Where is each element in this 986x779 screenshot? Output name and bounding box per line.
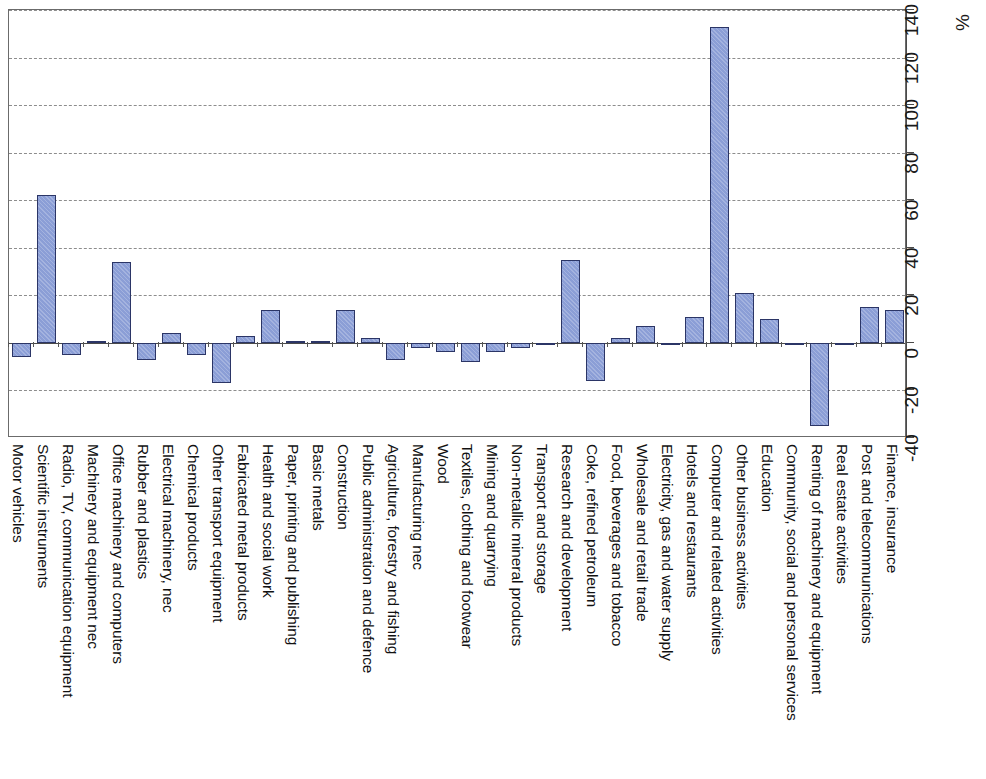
chart-figure: -40-20020406080100120140 % Motor vehicle… [0, 0, 986, 779]
bar [561, 260, 580, 343]
gridline [9, 153, 905, 154]
category-label: Chemical products [186, 444, 202, 571]
y-axis-tick [907, 342, 914, 343]
x-axis-tick [58, 342, 59, 347]
gridline [9, 105, 905, 106]
category-label: Transport and storage [535, 444, 551, 594]
bar [436, 343, 455, 353]
bar [636, 326, 655, 343]
x-axis-tick [133, 342, 134, 347]
bar [236, 336, 255, 343]
bar [735, 293, 754, 343]
bar [12, 343, 31, 357]
bar [361, 338, 380, 343]
x-axis-tick [532, 342, 533, 347]
category-label: Textiles, clothing and footwear [460, 444, 476, 649]
category-label: Health and social work [260, 444, 276, 598]
bar [386, 343, 405, 360]
bar [336, 310, 355, 343]
plot-area [9, 10, 905, 436]
x-axis-tick [432, 342, 433, 347]
category-label: Office machinery and computers [111, 444, 127, 664]
x-axis-tick [233, 342, 234, 347]
bar [461, 343, 480, 362]
x-axis-tick [407, 342, 408, 347]
bar [860, 307, 879, 343]
category-label: Public administration and defence [360, 444, 376, 673]
y-axis-tick-label: 40 [901, 247, 923, 269]
bar [685, 317, 704, 343]
bar [261, 310, 280, 343]
x-axis-tick [8, 342, 9, 347]
gridline [9, 10, 905, 11]
category-labels: Motor vehiclesScientific instrumentsRadi… [8, 444, 906, 774]
y-axis-tick-label: 60 [901, 199, 923, 221]
y-axis-tick-label: 100 [901, 99, 923, 131]
x-axis-tick [706, 342, 707, 347]
x-axis-tick [607, 342, 608, 347]
gridline [9, 390, 905, 391]
category-label: Wholesale and retail trade [635, 444, 651, 621]
category-label: Finance, insurance [884, 444, 900, 573]
bar [661, 343, 680, 346]
bar [62, 343, 81, 355]
x-axis-tick [806, 342, 807, 347]
x-axis-tick [657, 342, 658, 347]
category-label: Non-metallic mineral products [510, 444, 526, 646]
gridline [9, 58, 905, 59]
gridline [9, 295, 905, 296]
category-label: Community, social and personal services [784, 444, 800, 721]
axis-unit-label: % [952, 14, 974, 31]
x-axis-tick [582, 342, 583, 347]
x-axis-tick [682, 342, 683, 347]
category-label: Education [759, 444, 775, 512]
category-label: Coke, refined petroleum [585, 444, 601, 607]
category-label: Construction [335, 444, 351, 530]
x-axis-tick [108, 342, 109, 347]
y-axis-tick-label: -20 [901, 386, 923, 414]
y-axis-tick-label: 140 [901, 4, 923, 36]
y-axis-tick-label: 120 [901, 51, 923, 83]
category-label: Other transport equipment [211, 444, 227, 622]
bar [87, 341, 106, 344]
bar [411, 343, 430, 348]
category-label: Mining and quarrying [485, 444, 501, 587]
bar [162, 333, 181, 343]
category-label: Real estate activities [834, 444, 850, 584]
bar [112, 262, 131, 343]
y-axis-tick-label: 20 [901, 295, 923, 317]
x-axis-tick [756, 342, 757, 347]
x-axis-tick [33, 342, 34, 347]
category-label: Fabricated metal products [235, 444, 251, 621]
category-label: Renting of machinery and equipment [809, 444, 825, 694]
category-label: Other business activities [734, 444, 750, 610]
category-label: Electricity, gas and water supply [660, 444, 676, 661]
category-label: Research and development [560, 444, 576, 631]
y-axis-tick-label: 0 [901, 347, 923, 358]
x-axis-tick [282, 342, 283, 347]
x-axis-tick [183, 342, 184, 347]
bar [187, 343, 206, 355]
x-axis-tick [332, 342, 333, 347]
plot-frame [8, 9, 906, 437]
category-label: Food, beverages and tobacco [610, 444, 626, 646]
category-label: Post and telecommunications [859, 444, 875, 644]
category-label: Manufacturing nec [410, 444, 426, 570]
bar [760, 319, 779, 343]
x-axis-tick [781, 342, 782, 347]
bar [212, 343, 231, 383]
x-axis-tick [208, 342, 209, 347]
gridline [9, 200, 905, 201]
bar [810, 343, 829, 426]
bar [710, 27, 729, 343]
bar [311, 341, 330, 344]
bar [486, 343, 505, 353]
x-axis-tick [856, 342, 857, 347]
category-label: Wood [435, 444, 451, 484]
bar [586, 343, 605, 381]
category-label: Radio, TV, communication equipment [61, 444, 77, 697]
gridline [9, 248, 905, 249]
x-axis-tick [507, 342, 508, 347]
x-axis-tick [731, 342, 732, 347]
bar [611, 338, 630, 343]
